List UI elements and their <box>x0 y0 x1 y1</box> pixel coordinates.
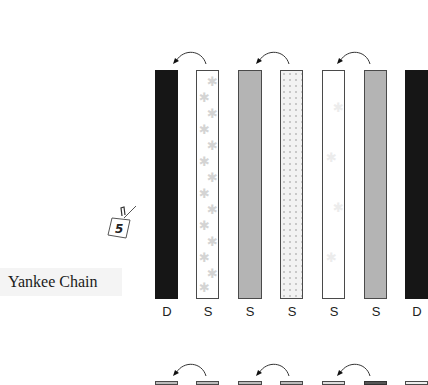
strip-top <box>405 381 428 385</box>
strip-label: S <box>364 304 388 319</box>
strip-top <box>280 381 303 385</box>
diagram-title: Yankee Chain <box>8 273 97 291</box>
swap-arrow-icon <box>253 48 293 66</box>
strip-label: S <box>238 304 262 319</box>
strip-label: D <box>155 304 179 319</box>
swap-arrow-icon <box>170 360 210 378</box>
strip-label: S <box>196 304 220 319</box>
swap-arrow-icon <box>253 360 293 378</box>
strip-top <box>364 381 387 385</box>
strip-label: D <box>405 304 428 319</box>
step-tag-icon: 5 <box>104 202 140 242</box>
strip-label: S <box>280 304 304 319</box>
strip-dark <box>155 70 178 299</box>
strip-white: ✱ ✱ ✱ ✱ <box>322 70 345 299</box>
strip-top <box>322 381 345 385</box>
strip-gray <box>364 70 387 299</box>
strip-dotted <box>280 70 303 299</box>
svg-text:5: 5 <box>115 222 123 236</box>
swap-arrow-icon <box>170 48 210 66</box>
swap-arrow-icon <box>334 360 374 378</box>
strip-top <box>196 381 219 385</box>
strip-top <box>155 381 178 385</box>
strip-floral: ✱ ✱ ✱ ✱ ✱ ✱ ✱ ✱ ✱ ✱ ✱ ✱ ✱ ✱ <box>196 70 219 299</box>
strip-gray <box>238 70 262 299</box>
strip-top <box>238 381 262 385</box>
strip-dark <box>405 70 428 299</box>
swap-arrow-icon <box>334 48 374 66</box>
strip-label: S <box>322 304 346 319</box>
